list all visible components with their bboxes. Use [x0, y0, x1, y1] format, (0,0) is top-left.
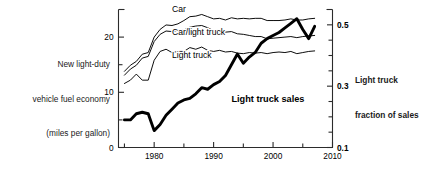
- left-axis-caption: New light-duty vehicle fuel economy (mil…: [6, 36, 110, 163]
- left-axis-caption-line-2: vehicle fuel economy: [6, 94, 110, 106]
- series-label: Light truck sales: [231, 94, 304, 104]
- right-axis-caption-line-2: fraction of sales: [355, 110, 435, 122]
- series-label: Car: [172, 4, 186, 14]
- left-axis-caption-line-3: (miles per gallon): [6, 128, 110, 140]
- x-axis-tick-label: 1980: [145, 151, 164, 161]
- x-axis-tick-label: 2000: [264, 151, 283, 161]
- axes-group: [119, 10, 333, 148]
- series-line: [124, 47, 314, 83]
- x-axis-tick-label: 1990: [204, 151, 223, 161]
- figure-container: New light-duty vehicle fuel economy (mil…: [0, 0, 437, 174]
- y2-axis-tick-label: 0.3: [337, 81, 349, 91]
- series-label: Car/light truck: [172, 27, 226, 37]
- axis-frame: [119, 10, 333, 148]
- ticks-group: [119, 25, 333, 148]
- right-axis-caption: Light truck fraction of sales: [355, 52, 435, 144]
- right-axis-caption-line-1: Light truck: [355, 75, 435, 87]
- x-axis-tick-label: 2010: [323, 151, 342, 161]
- left-axis-caption-line-1: New light-duty: [6, 59, 110, 71]
- series-label: Light truck: [172, 50, 212, 60]
- tick-labels-group: 010200.10.30.51980199020002010: [104, 20, 349, 161]
- y2-axis-tick-label: 0.5: [337, 20, 349, 30]
